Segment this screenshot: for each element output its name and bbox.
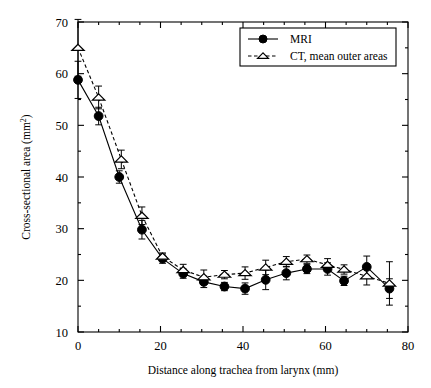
data-point-marker-circle [241,284,250,293]
data-point-marker-triangle [321,261,333,267]
data-point-marker-triangle [72,44,84,50]
data-point-marker-triangle [383,280,395,286]
series-line [78,80,389,289]
data-point-marker-triangle [115,156,127,162]
legend-label: MRI [290,33,312,45]
data-point-marker-triangle [338,266,350,272]
data-point-marker-circle [220,282,229,291]
y-tick-label: 60 [56,67,69,81]
data-point-marker-circle [282,269,291,278]
data-point-marker-circle [74,75,83,84]
data-point-marker-triangle [92,94,104,100]
x-tick-label: 80 [402,339,415,353]
series-line [78,48,389,284]
data-point-marker-circle [94,112,103,121]
data-point-marker-circle [138,225,147,234]
legend-label: CT, mean outer areas [290,50,388,63]
data-point-marker-circle [115,173,124,182]
y-tick-label: 50 [56,119,69,133]
legend-layer: MRICT, mean outer areas [240,28,396,66]
x-axis-title: Distance along trachea from larynx (mm) [148,364,339,377]
data-point-marker-circle [261,275,270,284]
data-point-marker-circle [303,265,312,274]
y-tick-label: 10 [56,326,69,340]
y-tick-label: 30 [56,222,69,236]
data-point-marker-circle [259,35,267,43]
y-tick-label: 70 [56,16,69,30]
y-tick-label: 20 [56,274,69,288]
data-point-marker-circle [340,276,349,285]
data-point-marker-triangle [136,212,148,218]
data-point-marker-triangle [301,256,313,262]
y-axis-title: Cross-sectional area (mm2) [19,114,33,240]
data-point-marker-triangle [239,270,251,276]
x-tick-label: 0 [75,339,81,353]
data-point-marker-triangle [259,264,271,270]
x-tick-label: 40 [237,339,250,353]
series-mri [74,61,394,298]
x-tick-label: 60 [319,339,332,353]
data-point-marker-triangle [156,253,168,259]
figure-container: MRICT, mean outer areas 0204060801020304… [0,0,431,388]
chart-svg: MRICT, mean outer areas 0204060801020304… [0,0,431,388]
x-tick-label: 20 [154,339,167,353]
data-point-marker-triangle [361,273,373,279]
data-point-marker-triangle [177,266,189,272]
y-tick-label: 40 [56,171,69,185]
